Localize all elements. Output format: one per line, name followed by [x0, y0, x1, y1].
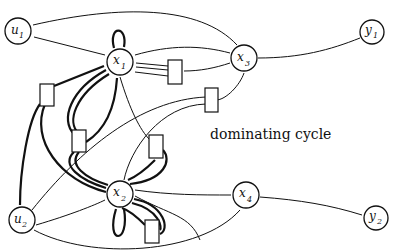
box-2 [168, 60, 182, 84]
svg-text:3: 3 [245, 59, 250, 68]
edge-box-x3 [184, 63, 230, 71]
svg-text:4: 4 [246, 195, 252, 204]
node-x2: x2 [107, 181, 133, 207]
edge-x2-x4 [135, 190, 231, 195]
self-loop-x1 [113, 31, 125, 48]
dominating-cycle-diagram: u1 x1 x3 y1 u2 x2 x4 y2 [0, 0, 400, 252]
node-x1: x1 [107, 49, 133, 75]
box-6 [205, 88, 218, 112]
svg-text:x: x [239, 186, 246, 200]
svg-text:x: x [113, 53, 120, 67]
caption-dominating-cycle: dominating cycle [210, 126, 331, 142]
svg-text:u: u [14, 212, 22, 226]
svg-text:1: 1 [19, 31, 24, 40]
svg-text:2: 2 [376, 217, 382, 226]
edge-x1-box-c [135, 72, 168, 76]
edge-box2-x2 [124, 104, 206, 180]
edge-x1-box-b [136, 67, 168, 70]
svg-text:1: 1 [121, 62, 126, 71]
edge-u2-x2 [36, 200, 105, 225]
node-u1: u1 [5, 18, 31, 44]
edge-u1-x1 [34, 37, 105, 55]
node-x3: x3 [231, 45, 257, 71]
edge-x1-x3-top [135, 47, 230, 55]
node-y2: y2 [364, 206, 388, 230]
edge-x2-box3 [128, 160, 155, 180]
box-1 [40, 84, 54, 106]
edge-x1-box3 [120, 77, 150, 140]
node-x4: x4 [233, 182, 259, 208]
edge-u1-x3 [33, 12, 237, 45]
edge-box2-x3 [216, 73, 244, 100]
self-loop-x2 [113, 209, 125, 236]
edge-box1-u2 [20, 104, 40, 205]
box-3 [149, 135, 163, 158]
svg-text:2: 2 [21, 220, 27, 229]
svg-text:x: x [113, 185, 120, 199]
svg-text:y: y [364, 23, 372, 37]
svg-text:y: y [368, 209, 376, 223]
node-u2: u2 [9, 207, 35, 233]
edge-x1-box-a [136, 63, 168, 66]
svg-text:u: u [11, 23, 19, 37]
svg-text:x: x [237, 50, 244, 64]
edge-x4-y2 [260, 197, 362, 215]
node-y1: y1 [360, 20, 384, 44]
box-4 [72, 130, 86, 152]
svg-text:2: 2 [120, 194, 126, 203]
svg-text:1: 1 [373, 31, 378, 40]
edge-x3-y1 [258, 38, 360, 58]
box-5 [145, 220, 159, 243]
